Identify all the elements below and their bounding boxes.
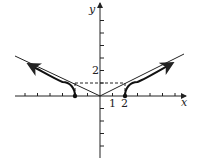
hyperbola-graph: 1 2 2 x y — [0, 0, 212, 166]
hyperbola-branch-left — [30, 65, 75, 96]
tick-label-x1: 1 — [109, 97, 116, 110]
tick-label-y2: 2 — [92, 64, 99, 77]
vertex-left — [73, 94, 77, 98]
x-axis-label: x — [181, 96, 188, 109]
y-axis-label: y — [88, 3, 96, 16]
tick-label-x2: 2 — [121, 97, 128, 110]
asymptote-left — [15, 56, 100, 96]
asymptote-right — [100, 54, 184, 96]
